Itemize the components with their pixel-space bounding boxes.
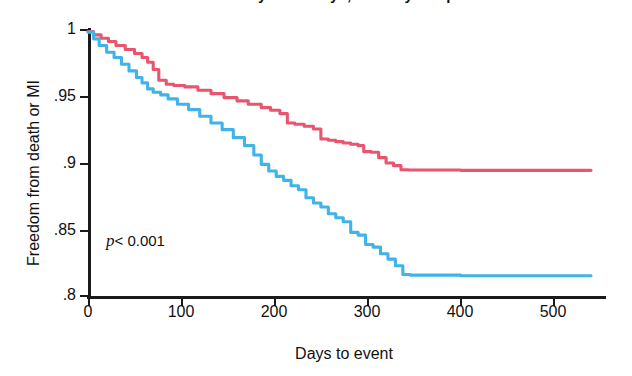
curve-upper xyxy=(88,32,591,171)
kaplan-meier-figure: Clinical Efficacy at 30 Days, Primary En… xyxy=(0,0,632,376)
survival-curves xyxy=(0,0,632,376)
curve-lower xyxy=(88,32,591,276)
